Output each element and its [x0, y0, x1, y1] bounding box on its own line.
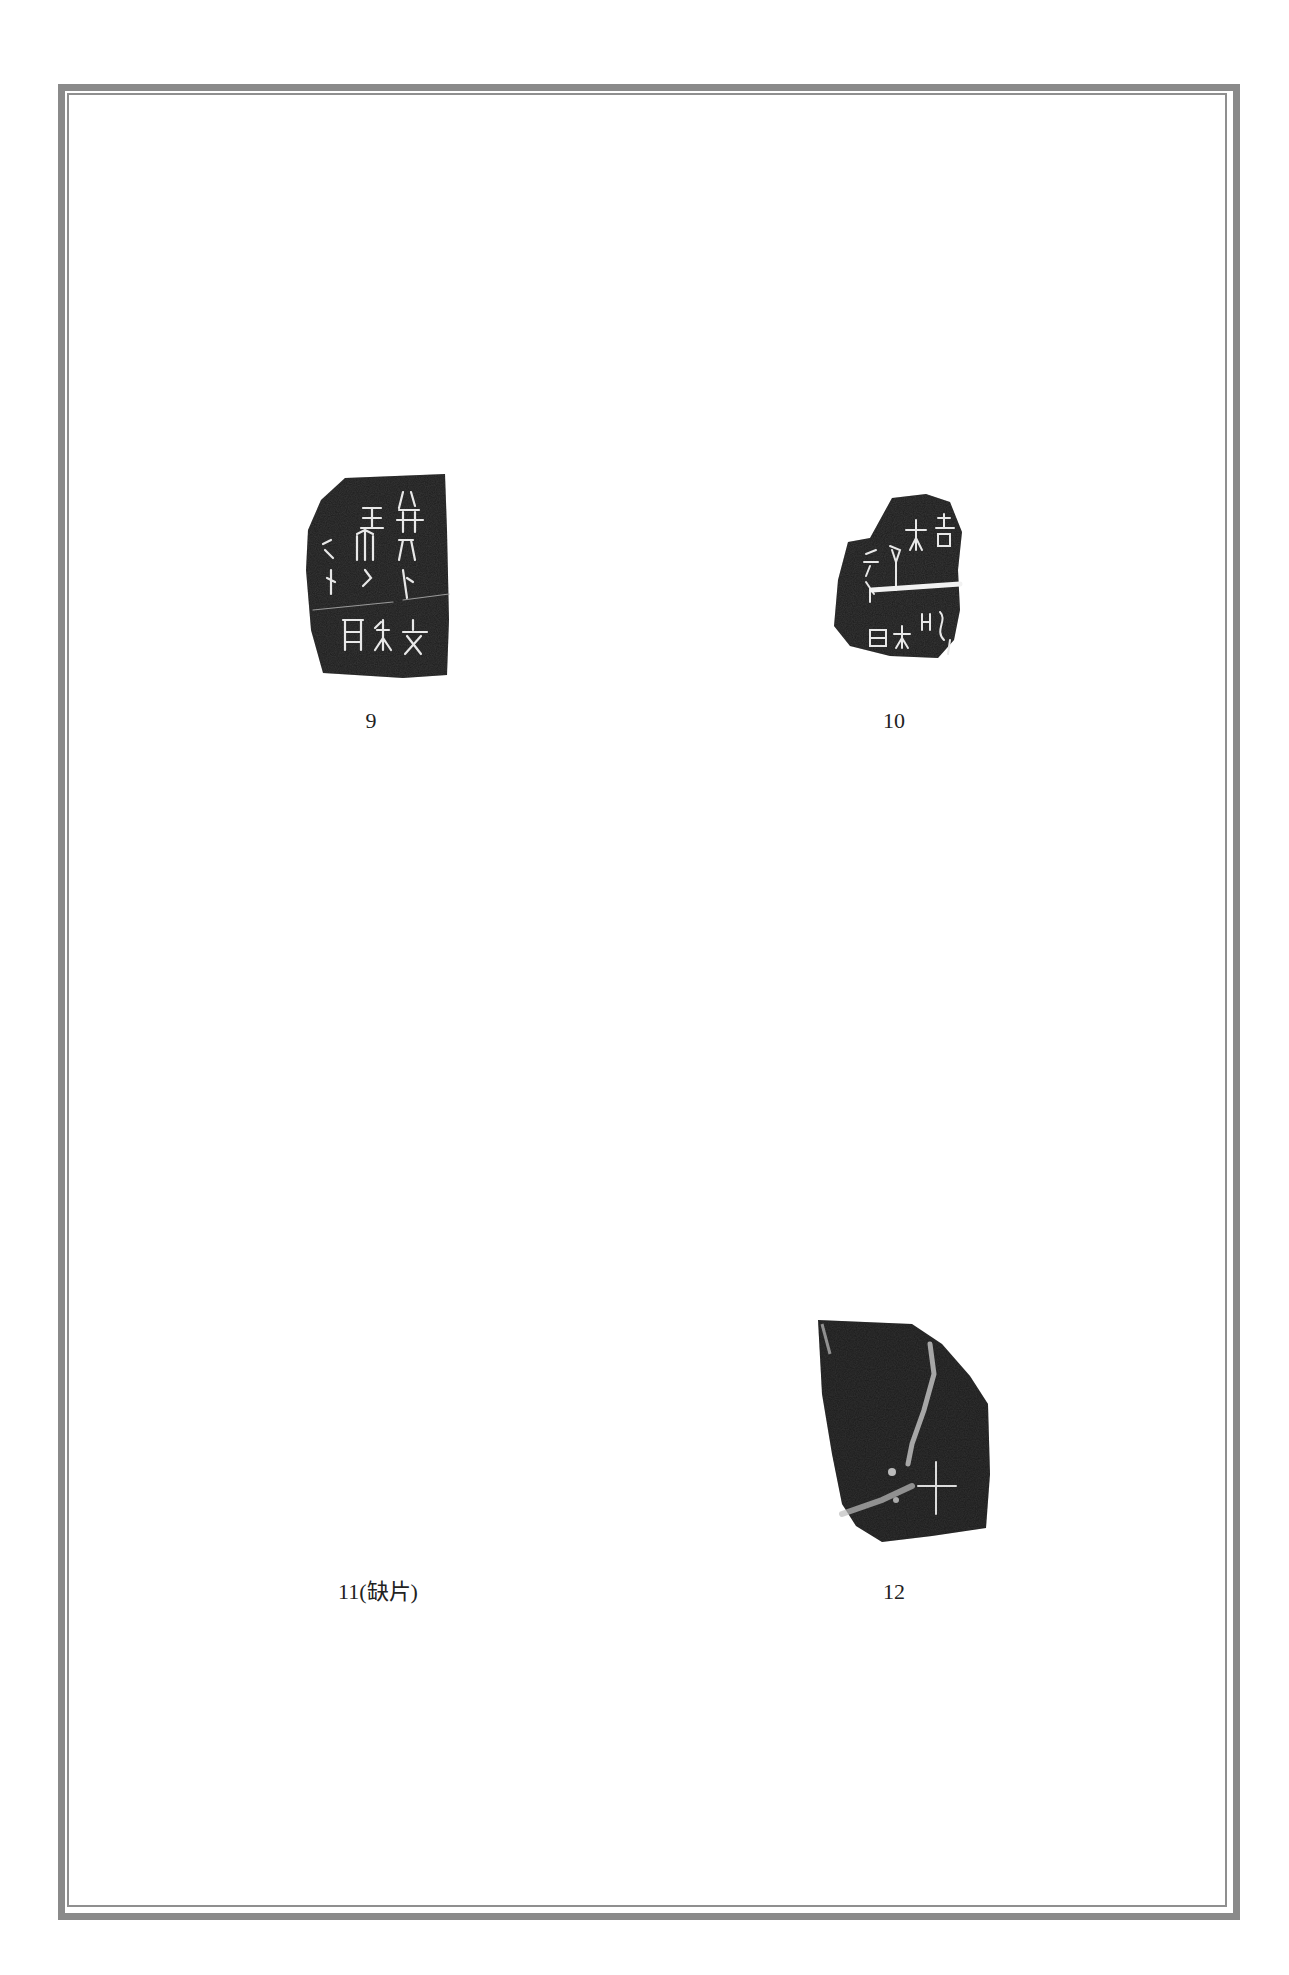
plate-label: 11(缺片) — [338, 1581, 418, 1603]
plate-label: 9 — [366, 710, 377, 732]
plate-label: 12 — [883, 1581, 905, 1603]
oracle-bone-rubbing-12 — [812, 1314, 994, 1544]
page-border-inner — [67, 93, 1227, 1907]
oracle-bone-rubbing-9 — [303, 470, 451, 682]
plate-label: 10 — [883, 710, 905, 732]
oracle-bone-rubbing-10 — [830, 490, 964, 664]
